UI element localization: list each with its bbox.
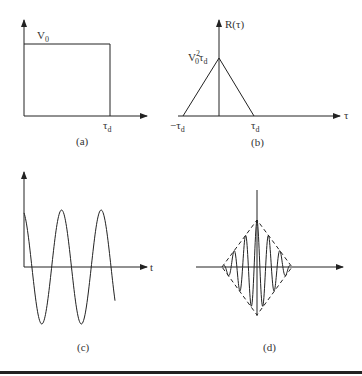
rect-pulse — [24, 44, 110, 116]
label-neg-tau-d: −τd — [170, 120, 185, 134]
label-tau-d-b: τd — [251, 120, 259, 134]
label-t-axis: t — [150, 262, 153, 273]
panel-c — [24, 172, 147, 324]
label-v0: V0 — [37, 30, 49, 44]
caption-d: (d) — [263, 342, 276, 353]
diagram-canvas — [0, 0, 362, 376]
label-peak: V20τd — [188, 50, 207, 66]
caption-c: (c) — [77, 342, 89, 353]
label-tau-axis: τ — [344, 110, 348, 121]
panel-b — [178, 20, 340, 116]
panel-d — [196, 190, 343, 316]
label-tau-d-a: τd — [103, 120, 111, 134]
caption-a: (a) — [76, 136, 88, 147]
bottom-rule — [0, 371, 362, 374]
label-r-tau: R(τ) — [225, 19, 244, 30]
caption-b: (b) — [251, 137, 264, 148]
